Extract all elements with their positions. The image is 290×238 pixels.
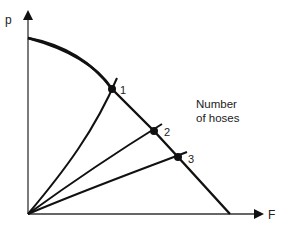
pump-curve-smooth: [28, 38, 112, 89]
point-label-2: 2: [164, 126, 170, 138]
pump-characteristic-diagram: p F 1 2 3 Number of hoses: [0, 0, 290, 238]
y-axis-label: p: [5, 13, 12, 27]
system-curve-3: [28, 152, 187, 214]
x-axis-label: F: [268, 208, 275, 222]
operating-point-1: [108, 85, 116, 93]
point-label-1: 1: [120, 84, 126, 96]
point-label-3: 3: [188, 153, 194, 165]
pump-curve: [28, 38, 230, 214]
annotation-line-1: Number: [196, 98, 237, 110]
system-curve-1: [28, 78, 117, 214]
annotation-line-2: of hoses: [196, 112, 240, 124]
operating-point-3: [174, 153, 182, 161]
operating-point-2: [150, 127, 158, 135]
